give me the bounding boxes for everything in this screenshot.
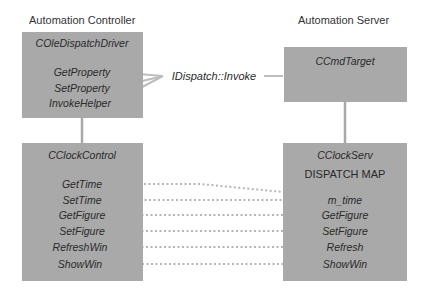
control-method: GetFigure — [59, 209, 106, 221]
control-method: GetTime — [62, 178, 102, 190]
driver-method: GetProperty — [54, 66, 111, 78]
dispatch-map-entry: ShowWin — [323, 258, 367, 270]
cmd-target-name: CCmdTarget — [315, 55, 374, 67]
dispatch-map-entry: GetFigure — [322, 209, 369, 221]
controller-title: Automation Controller — [29, 14, 135, 26]
control-method: ShowWin — [58, 258, 102, 270]
control-method: SetFigure — [59, 225, 105, 237]
dispatch-map-heading: DISPATCH MAP — [305, 168, 386, 180]
control-method: SetTime — [62, 194, 101, 206]
driver-method: SetProperty — [54, 82, 109, 94]
dispatch-driver-name: COleDispatchDriver — [36, 37, 129, 49]
dispatch-map-entry: SetFigure — [322, 225, 368, 237]
driver-method: InvokeHelper — [49, 97, 111, 109]
dispatch-map-entry: m_time — [328, 194, 362, 206]
clock-serv-name: CClockServ — [317, 149, 372, 161]
idispatch-invoke-label: IDispatch::Invoke — [172, 70, 256, 82]
clock-control-name: CClockControl — [48, 149, 116, 161]
dispatch-map-entry: Refresh — [327, 241, 364, 253]
server-title: Automation Server — [298, 14, 389, 26]
control-method: RefreshWin — [53, 241, 108, 253]
